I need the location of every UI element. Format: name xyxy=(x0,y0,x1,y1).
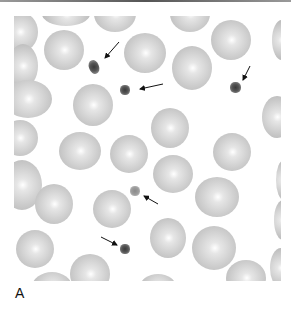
top-border xyxy=(0,0,291,2)
micrograph xyxy=(14,16,281,281)
panel-label: A xyxy=(15,285,24,301)
arrow-icon xyxy=(14,16,281,281)
